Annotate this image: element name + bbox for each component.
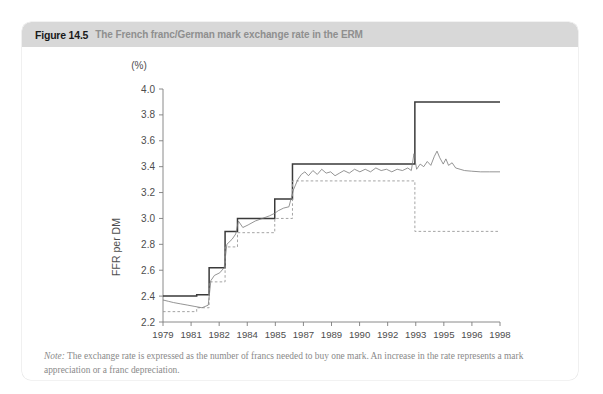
x-tick-label: 1981 bbox=[180, 329, 201, 340]
y-axis-title: FFR per DM bbox=[110, 218, 122, 276]
y-tick-label: 3.2 bbox=[141, 187, 155, 198]
y-tick-label: 2.4 bbox=[141, 291, 155, 302]
chart-series-line bbox=[163, 181, 500, 312]
y-axis-ticks: 4.03.83.63.43.23.02.82.62.42.2 bbox=[141, 84, 163, 328]
x-axis-ticks: 1979198119821984198519871989199019921993… bbox=[152, 322, 510, 340]
chart-series-line bbox=[163, 102, 500, 296]
x-tick-label: 1984 bbox=[237, 329, 259, 340]
y-axis-unit-label: (%) bbox=[131, 60, 147, 71]
y-tick-label: 3.0 bbox=[141, 213, 155, 224]
exchange-rate-chart: (%) FFR per DM 4.03.83.63.43.23.02.82.62… bbox=[22, 47, 578, 347]
figure-note: Note: The exchange rate is expressed as … bbox=[44, 350, 556, 377]
x-tick-label: 1989 bbox=[321, 329, 342, 340]
y-tick-label: 2.6 bbox=[141, 265, 155, 276]
y-tick-label: 4.0 bbox=[141, 84, 155, 95]
note-text: The exchange rate is expressed as the nu… bbox=[44, 351, 523, 375]
chart-series-group bbox=[163, 102, 500, 312]
x-tick-label: 1998 bbox=[489, 329, 510, 340]
y-tick-label: 3.4 bbox=[141, 161, 155, 172]
note-label: Note: bbox=[44, 351, 65, 361]
y-axis-unit-group: (%) bbox=[131, 60, 147, 71]
y-tick-label: 3.8 bbox=[141, 109, 155, 120]
x-tick-label: 1979 bbox=[152, 329, 173, 340]
y-tick-label: 3.6 bbox=[141, 135, 155, 146]
x-tick-label: 1993 bbox=[405, 329, 426, 340]
y-tick-label: 2.2 bbox=[141, 317, 155, 328]
figure-number: Figure 14.5 bbox=[35, 29, 88, 41]
figure-caption: The French franc/German mark exchange ra… bbox=[95, 29, 363, 40]
chart-plot-area: (%) FFR per DM 4.03.83.63.43.23.02.82.62… bbox=[22, 47, 578, 347]
x-tick-label: 1992 bbox=[377, 329, 398, 340]
x-tick-label: 1985 bbox=[265, 329, 286, 340]
x-tick-label: 1996 bbox=[461, 329, 482, 340]
figure-card: Figure 14.5 The French franc/German mark… bbox=[22, 22, 578, 380]
x-tick-label: 1982 bbox=[208, 329, 229, 340]
chart-series-line bbox=[163, 151, 500, 308]
x-tick-label: 1987 bbox=[293, 329, 314, 340]
x-tick-label: 1990 bbox=[349, 329, 370, 340]
y-tick-label: 2.8 bbox=[141, 239, 155, 250]
x-tick-label: 1995 bbox=[433, 329, 454, 340]
figure-header-bar: Figure 14.5 The French franc/German mark… bbox=[22, 22, 578, 47]
